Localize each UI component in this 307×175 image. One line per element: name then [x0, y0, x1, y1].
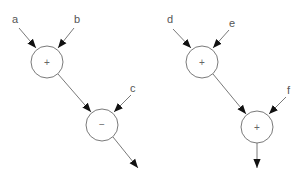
- edge-add-to-add: [213, 74, 246, 114]
- edge-b-to-add: [58, 28, 74, 48]
- input-label-e: e: [229, 17, 235, 29]
- diagram-canvas: a b + c − d e + f +: [0, 0, 307, 175]
- add-operator-1: +: [44, 57, 50, 68]
- edge-add-to-subtract: [58, 74, 91, 112]
- add-operator-3: +: [199, 57, 205, 68]
- output-arrow-left: [113, 137, 138, 168]
- edge-c-to-subtract: [114, 95, 131, 112]
- input-label-d: d: [167, 13, 173, 25]
- edge-a-to-add: [19, 28, 36, 48]
- add-operator-4: +: [254, 122, 260, 133]
- edge-d-to-add: [173, 29, 191, 48]
- edge-e-to-add: [213, 30, 229, 48]
- input-label-c: c: [130, 82, 136, 94]
- edge-f-to-add: [269, 97, 286, 114]
- input-label-b: b: [74, 13, 80, 25]
- subtract-operator: −: [99, 119, 105, 130]
- expression-tree-left: a b + c −: [12, 13, 138, 168]
- input-label-f: f: [287, 84, 291, 96]
- expression-tree-right: d e + f +: [167, 13, 291, 168]
- input-label-a: a: [12, 13, 19, 25]
